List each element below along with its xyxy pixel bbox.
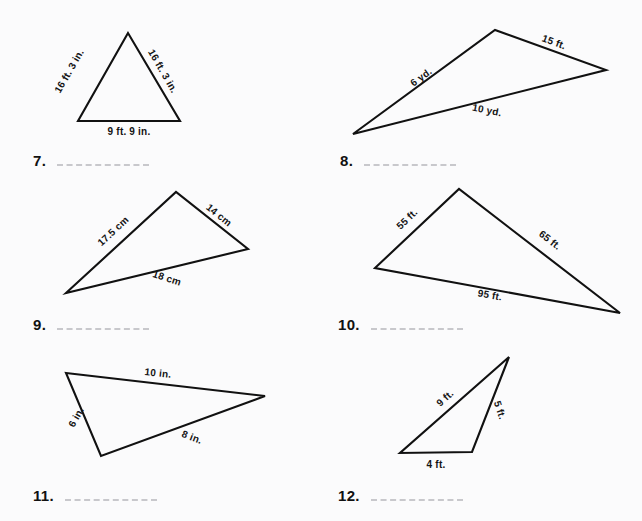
problem-10: 10.: [338, 316, 463, 333]
triangle-figure-8: [353, 30, 606, 134]
problem-number: 9.: [33, 316, 46, 333]
problem-8: 8.: [340, 152, 456, 169]
answer-blank[interactable]: [57, 154, 149, 166]
problem-11: 11.: [33, 487, 157, 504]
answer-blank[interactable]: [371, 318, 463, 330]
worksheet-page: 16 ft. 3 in.16 ft. 3 in.9 ft. 9 in.6 yd.…: [0, 0, 642, 521]
problem-number: 7.: [33, 152, 46, 169]
problem-number: 8.: [340, 152, 353, 169]
answer-blank[interactable]: [364, 154, 456, 166]
problem-9: 9.: [33, 316, 149, 333]
problem-number: 10.: [338, 316, 360, 333]
triangle-figure-7: [78, 33, 180, 121]
figure-layer: [0, 0, 642, 521]
triangle-figure-9: [66, 192, 248, 293]
problem-number: 11.: [33, 487, 54, 504]
problem-12: 12.: [338, 487, 463, 504]
problem-7: 7.: [33, 152, 149, 169]
triangle-figure-10: [375, 189, 620, 313]
answer-blank[interactable]: [57, 318, 149, 330]
problem-number: 12.: [338, 487, 360, 504]
triangle-figure-11: [66, 373, 265, 456]
answer-blank[interactable]: [65, 489, 157, 501]
answer-blank[interactable]: [371, 489, 463, 501]
triangle-figure-12: [400, 357, 509, 453]
